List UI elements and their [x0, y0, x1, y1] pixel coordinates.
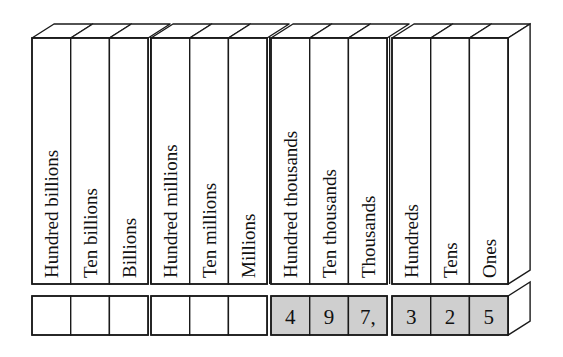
digit-box-empty [151, 296, 190, 335]
place-label-hundred-billions: Hundred billions [41, 150, 62, 278]
place-label-ones: Ones [479, 239, 500, 278]
digit-value: 4 [285, 305, 296, 329]
period-ones: Hundreds3Tens2Ones5 [392, 24, 530, 335]
place-value-chart-svg: Hundred billionsTen billionsBillionsHund… [0, 0, 563, 357]
place-label-ten-thousands: Ten thousands [319, 169, 340, 278]
digit-box-empty [71, 296, 110, 335]
digit-box-empty [109, 296, 148, 335]
digit-box-empty [32, 296, 71, 335]
place-label-tens: Tens [440, 242, 461, 278]
place-label-thousands: Thousands [358, 196, 379, 278]
digit-box-empty [190, 296, 229, 335]
place-value-diagram: Hundred billionsTen billionsBillionsHund… [0, 0, 563, 357]
place-label-ten-millions: Ten millions [199, 183, 220, 278]
place-label-hundreds: Hundreds [401, 204, 422, 278]
digit-value: 9 [324, 305, 335, 329]
digit-value: 3 [406, 305, 417, 329]
digit-box-empty [228, 296, 267, 335]
place-label-hundred-millions: Hundred millions [160, 144, 181, 278]
digit-value: 5 [484, 305, 495, 329]
place-label-ten-billions: Ten billions [80, 188, 101, 278]
digit-value: 2 [445, 305, 456, 329]
place-label-hundred-thousands: Hundred thousands [280, 131, 301, 278]
digit-value: 7, [360, 305, 376, 329]
period-thousands: Hundred thousands4Ten thousands9Thousand… [271, 24, 409, 335]
period-billions: Hundred billionsTen billionsBillions [32, 24, 170, 335]
period-millions: Hundred millionsTen millionsMillions [151, 24, 289, 335]
place-label-billions: Billions [119, 218, 140, 278]
column-side-face [508, 24, 530, 284]
digit-row-side-face [508, 282, 530, 335]
place-label-millions: Millions [238, 214, 259, 278]
